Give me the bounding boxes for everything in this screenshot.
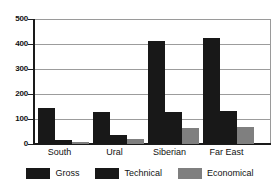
x-tick-label-ural: Ural — [89, 147, 140, 158]
bar-ural-gross — [93, 112, 110, 144]
bar-south-technical — [55, 140, 72, 144]
legend-label-technical: Technical — [124, 168, 162, 179]
bar-group-south — [38, 19, 89, 144]
bar-group-ural — [93, 19, 144, 144]
bar-far-east-gross — [203, 38, 220, 144]
bar-siberian-economical — [182, 128, 199, 144]
bars-layer — [34, 19, 271, 144]
bar-siberian-gross — [148, 41, 165, 144]
x-tick-label-far-east: Far East — [199, 147, 254, 158]
legend-swatch-technical — [95, 168, 119, 179]
legend-swatch-economical — [178, 168, 202, 179]
bar-chart-figure: 500 400 300 200 100 0 South Ural Siberia… — [0, 0, 280, 187]
y-tick-mark-200 — [28, 94, 33, 95]
bar-siberian-technical — [165, 112, 182, 144]
y-tick-mark-100 — [28, 119, 33, 120]
bar-south-gross — [38, 108, 55, 144]
y-tick-mark-0 — [28, 144, 33, 145]
y-tick-label-100: 100 — [2, 115, 28, 123]
bar-far-east-technical — [220, 111, 237, 144]
bar-group-siberian — [148, 19, 199, 144]
y-tick-mark-300 — [28, 69, 33, 70]
x-tick-label-siberian: Siberian — [144, 147, 195, 158]
chart-legend: Gross Technical Economical — [0, 164, 280, 182]
bar-south-economical — [72, 142, 89, 144]
bar-ural-technical — [110, 135, 127, 144]
legend-swatch-gross — [26, 168, 50, 179]
y-tick-label-400: 400 — [2, 40, 28, 48]
bar-ural-economical — [127, 139, 144, 144]
legend-label-economical: Economical — [207, 168, 254, 179]
y-tick-label-500: 500 — [2, 15, 28, 23]
legend-entry-economical: Economical — [178, 168, 254, 179]
bar-far-east-economical — [237, 127, 254, 144]
legend-label-gross: Gross — [55, 168, 79, 179]
y-tick-label-0: 0 — [2, 140, 28, 148]
x-tick-label-south: South — [34, 147, 85, 158]
y-tick-label-200: 200 — [2, 90, 28, 98]
legend-entry-gross: Gross — [26, 168, 79, 179]
legend-entry-technical: Technical — [95, 168, 162, 179]
y-tick-mark-400 — [28, 44, 33, 45]
bar-group-far-east — [203, 19, 254, 144]
y-tick-mark-500 — [28, 19, 33, 20]
y-tick-label-300: 300 — [2, 65, 28, 73]
